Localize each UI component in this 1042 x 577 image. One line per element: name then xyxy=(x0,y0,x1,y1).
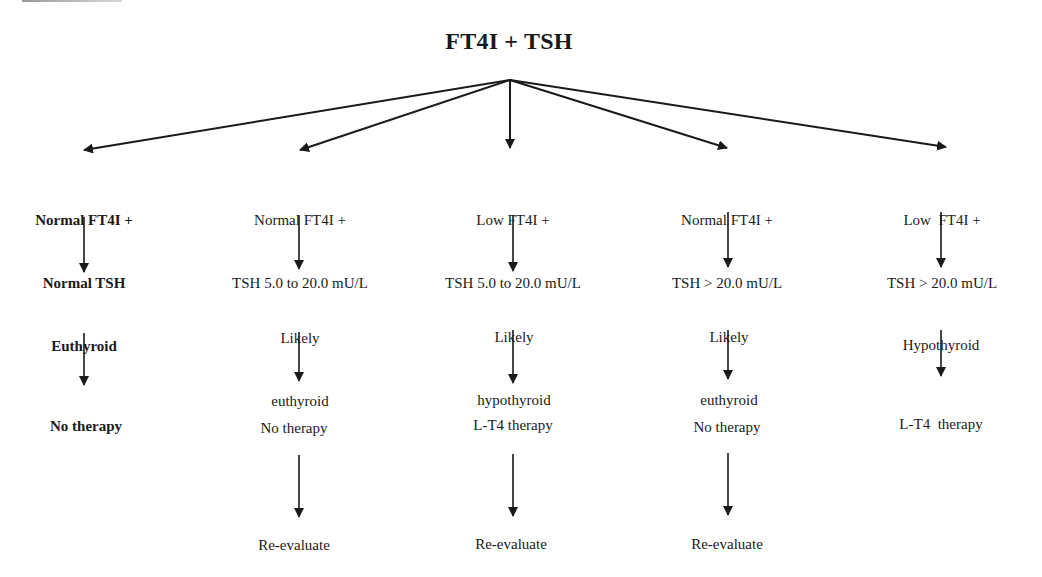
action-node-2: No therapy xyxy=(260,418,327,439)
diagnosis-node-4: Likely euthyroid xyxy=(700,285,758,432)
followup-node-3: Re-evaluate xyxy=(475,534,547,555)
condition-line: Normal TSH xyxy=(35,273,133,294)
diagnosis-line: Hypothyroid xyxy=(903,335,980,356)
diagnosis-line: hypothyroid xyxy=(477,390,550,411)
diagnosis-line: Likely xyxy=(700,327,758,348)
diagnosis-node-1: Euthyroid xyxy=(51,294,117,378)
diagnosis-line: euthyroid xyxy=(271,391,329,412)
diagnosis-node-5: Hypothyroid xyxy=(903,293,980,377)
diagnosis-line: Likely xyxy=(271,328,329,349)
condition-line: Normal FT4I + xyxy=(672,210,782,231)
diagnosis-line: Likely xyxy=(477,327,550,348)
action-node-5: L-T4 therapy xyxy=(899,414,982,435)
action-node-1: No therapy xyxy=(50,416,122,437)
diagnosis-line: Euthyroid xyxy=(51,336,117,357)
followup-node-2: Re-evaluate xyxy=(258,535,330,556)
branch-arrow-5 xyxy=(510,80,946,147)
branch-arrow-2 xyxy=(300,80,510,150)
condition-line: Low FT4I + xyxy=(445,210,581,231)
condition-line: Normal FT4I + xyxy=(232,210,368,231)
followup-node-4: Re-evaluate xyxy=(691,534,763,555)
condition-line: TSH > 20.0 mU/L xyxy=(887,273,997,294)
diagnosis-line: euthyroid xyxy=(700,390,758,411)
condition-line: Low FT4I + xyxy=(887,210,997,231)
branch-arrow-4 xyxy=(510,80,727,148)
diagnosis-node-3: Likely hypothyroid xyxy=(477,285,550,432)
diagnosis-node-2: Likely euthyroid xyxy=(271,286,329,433)
action-node-3: L-T4 therapy xyxy=(473,415,553,436)
root-node-title: FT4I + TSH xyxy=(445,28,572,55)
action-node-4: No therapy xyxy=(693,417,760,438)
branch-arrow-1 xyxy=(84,80,510,150)
condition-line: Normal FT4I + xyxy=(35,210,133,231)
condition-node-1: Normal FT4I + Normal TSH xyxy=(35,168,133,315)
